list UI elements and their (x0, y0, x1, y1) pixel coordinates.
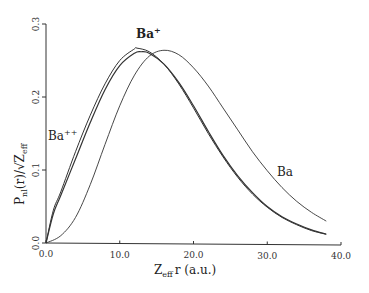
y-tick-label: 0.0 (31, 236, 41, 251)
axes (46, 24, 341, 245)
y-tick-label: 0.2 (31, 90, 41, 104)
x-tick-label: 30.0 (257, 251, 277, 261)
y-tick-label: 0.3 (31, 17, 41, 32)
curve-ba (46, 50, 326, 243)
curve-bap (46, 52, 326, 243)
x-axis-title: Zeffr (a.u.) (154, 263, 216, 279)
x-tick-label: 0.0 (39, 249, 54, 259)
label-ba-pp: Ba++ (48, 128, 77, 143)
label-ba: Ba (277, 165, 293, 179)
y-axis-title: Pnl(r)/√Zeff (13, 142, 29, 205)
radial-wavefunction-chart: 0.010.020.030.040.0 0.00.10.20.3 Ba++ Ba… (0, 0, 369, 293)
curve-bapp (46, 47, 326, 243)
x-tick-label: 20.0 (183, 250, 203, 260)
x-tick-label: 10.0 (110, 250, 130, 260)
curves (46, 47, 326, 243)
y-ticks: 0.00.10.20.3 (31, 17, 46, 251)
x-tick-label: 40.0 (331, 251, 351, 261)
y-tick-label: 0.1 (31, 163, 41, 177)
label-ba-p: Ba+ (136, 25, 161, 41)
